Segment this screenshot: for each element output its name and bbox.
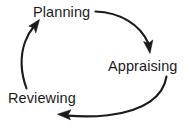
node-label-planning: Planning [33, 5, 90, 20]
arrow-appraising-to-reviewing-path [68, 77, 167, 117]
arrow-reviewing-to-planning [22, 20, 40, 89]
diagram-canvas: Planning Appraising Reviewing [0, 0, 189, 130]
arrow-planning-to-appraising-path [96, 12, 149, 44]
node-label-reviewing: Reviewing [8, 91, 76, 106]
node-label-appraising: Appraising [108, 59, 178, 74]
arrow-reviewing-to-planning-path [22, 27, 34, 89]
arrow-planning-to-appraising [96, 12, 153, 54]
